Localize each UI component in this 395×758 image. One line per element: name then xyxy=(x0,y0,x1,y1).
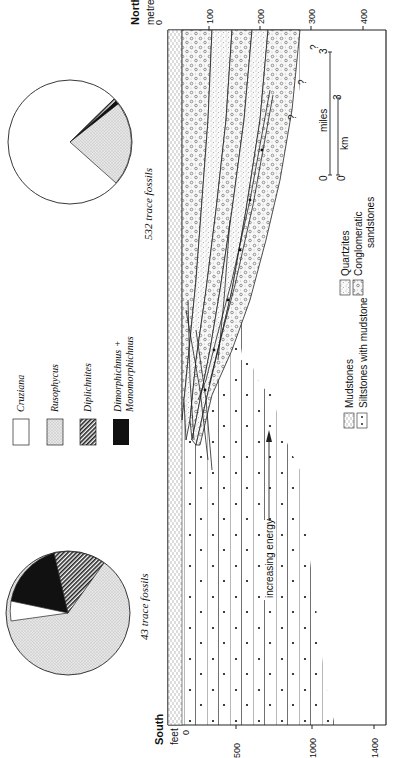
mudstone-unit xyxy=(168,30,182,725)
svg-text:Diplichnites: Diplichnites xyxy=(82,363,93,413)
pie-chart-north xyxy=(8,80,132,204)
legend-swatch-dimorphichnus xyxy=(113,419,129,445)
svg-text:3: 3 xyxy=(318,48,329,54)
svg-text:Cruziana: Cruziana xyxy=(15,375,26,412)
svg-text:1400: 1400 xyxy=(370,738,380,758)
uncertain-boundary-mark: ? xyxy=(287,114,298,120)
svg-text:100: 100 xyxy=(205,9,215,24)
svg-text:sandstones: sandstones xyxy=(365,197,376,248)
miles-label: miles xyxy=(318,109,329,132)
svg-text:0: 0 xyxy=(154,20,164,25)
svg-text:500: 500 xyxy=(232,743,242,758)
legend-swatch-quartzites xyxy=(340,280,350,295)
metres-axis: North metres 0 100 200 300 400 xyxy=(129,0,369,30)
pie-chart-south xyxy=(6,551,130,675)
north-fossil-count: 532 trace fossils xyxy=(142,168,154,240)
legend-swatch-conglomeratic xyxy=(353,280,363,295)
svg-text:0: 0 xyxy=(318,175,329,181)
svg-text:0: 0 xyxy=(181,730,191,735)
svg-text:Siltstones with mudstone: Siltstones with mudstone xyxy=(358,297,369,408)
geological-cross-section-figure: ? ? ? increasing energy South feet 0 500… xyxy=(0,0,395,758)
fossil-legend: Cruziana Rusophycus Diplichnites Dimorph… xyxy=(13,336,135,445)
svg-text:Dimorphichnus +: Dimorphichnus + xyxy=(112,341,123,413)
svg-text:200: 200 xyxy=(256,9,266,24)
km-label: km xyxy=(339,137,350,150)
svg-text:300: 300 xyxy=(307,9,317,24)
legend-swatch-cruziana xyxy=(13,419,29,445)
svg-text:Monomorphichnus: Monomorphichnus xyxy=(124,336,135,413)
south-label: South xyxy=(153,714,165,745)
legend-swatch-siltstones xyxy=(357,413,367,428)
legend-swatch-rusophycus xyxy=(47,419,63,445)
svg-text:1000: 1000 xyxy=(308,738,318,758)
legend-swatch-mudstones xyxy=(344,413,354,428)
legend-swatch-diplichnites xyxy=(80,419,96,445)
svg-text:Conglomeratic: Conglomeratic xyxy=(353,212,364,276)
uncertain-boundary-mark: ? xyxy=(297,79,308,85)
north-label: North xyxy=(129,0,141,25)
svg-text:400: 400 xyxy=(359,9,369,24)
lithology-legend: Mudstones Siltstones with mudstone Quart… xyxy=(340,197,376,428)
svg-text:0: 0 xyxy=(336,175,347,181)
svg-text:Mudstones: Mudstones xyxy=(344,359,355,408)
feet-label: feet xyxy=(169,728,180,745)
scale-bar xyxy=(328,52,340,175)
svg-text:3: 3 xyxy=(332,94,343,100)
svg-text:Quartzites: Quartzites xyxy=(340,230,351,276)
svg-text:Rusophycus: Rusophycus xyxy=(49,364,60,413)
increasing-energy-label: increasing energy xyxy=(264,519,275,598)
south-fossil-count: 43 trace fossils xyxy=(138,573,150,640)
